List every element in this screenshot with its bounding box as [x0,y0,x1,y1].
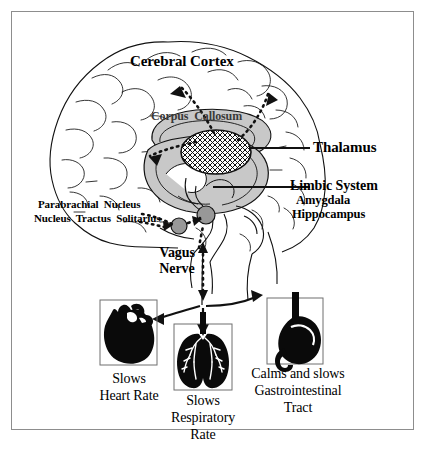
hippocampus-label: Hippocampus [292,208,365,222]
heart-caption-line1: Slows [86,371,172,386]
stomach-caption-line2: Gastrointestinal [236,383,360,398]
parabrachial-nucleus-label: Parabrachial Nucleus [38,199,140,211]
stomach-caption-line1: Calms and slows [236,366,360,381]
amygdala-label: Amygdala [296,194,350,208]
cerebral-cortex-label: Cerebral Cortex [130,53,234,69]
corpus-callosum-label: Corpus Callosum [151,110,242,123]
lungs-caption-line2: Respiratory [160,410,246,425]
stomach-caption-line3: Tract [236,400,360,415]
thalamus-label: Thalamus [313,139,376,155]
lungs-caption-line3: Rate [160,427,246,442]
vagus-nerve-diagram: Cerebral Cortex Corpus Callosum Thalamus… [0,0,431,459]
vagus-nerve-label-line1: Vagus [148,245,206,260]
lungs-caption-line1: Slows [160,393,246,408]
nucleus-tractus-solitarius-label: Nucleus Tractus Solitarius [34,213,160,225]
limbic-system-label: Limbic System [290,178,378,193]
vagus-nerve-label-line2: Nerve [148,261,206,276]
